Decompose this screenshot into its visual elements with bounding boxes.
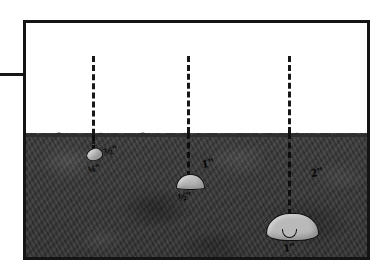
depth-label-deep: 2": [310, 165, 324, 179]
depth-line-deep-lower: [288, 133, 291, 215]
depth-line-deep: [288, 56, 291, 133]
soil-surface-line: [26, 129, 367, 137]
illustration-canvas: ½" ¼" 1" ½" 2" 1": [0, 0, 388, 277]
depth-line-medium: [187, 56, 190, 133]
illustration-frame: ½" ¼" 1" ½" 2" 1": [23, 20, 370, 260]
depth-label-medium: 1": [201, 156, 215, 170]
depth-line-medium-lower: [187, 133, 190, 177]
size-label-deep: 1": [283, 241, 296, 253]
soil-layer: [26, 133, 367, 260]
